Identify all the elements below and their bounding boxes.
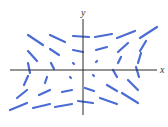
background — [0, 0, 168, 127]
x-axis-label: x — [159, 64, 165, 75]
slope-segment — [73, 63, 74, 64]
slope-segment — [73, 36, 89, 37]
slope-field-diagram: x y — [0, 0, 168, 127]
y-axis-label: y — [80, 7, 86, 18]
slope-segment — [96, 61, 97, 62]
slope-segment — [93, 75, 94, 76]
slope-segment — [70, 77, 71, 78]
